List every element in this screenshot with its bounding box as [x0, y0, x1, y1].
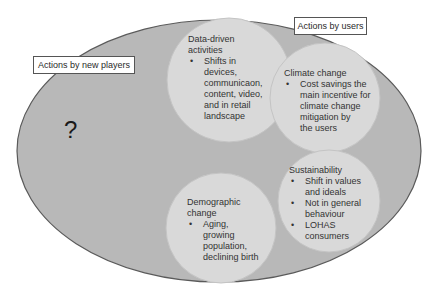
bullet-list: Shifts in devices, communicaon, content,…	[188, 56, 263, 122]
text-demographic-change: Demographic change Aging, growing popula…	[187, 197, 259, 263]
bullet-line: climate change	[300, 101, 371, 112]
bullet-line: population,	[203, 241, 259, 252]
heading-line: Climate change	[284, 68, 371, 79]
bullet-line: and ideals	[305, 187, 361, 198]
bullet-line: consumers	[305, 231, 361, 242]
bullet-line: content, video,	[204, 89, 263, 100]
label-actions-by-users: Actions by users	[294, 17, 367, 35]
bullet-line: Aging,	[203, 219, 259, 230]
bullet-list: Cost savings the main incentive for clim…	[284, 79, 371, 134]
bullet-line: devices,	[204, 67, 263, 78]
bullet-line: communicaon,	[204, 78, 263, 89]
bullet-line: and in retail	[204, 100, 263, 111]
bullet-line: Not in general	[305, 198, 361, 209]
bullet-item: Cost savings the main incentive for clim…	[284, 79, 371, 134]
bullet-line: growing	[203, 230, 259, 241]
bullet-item: Aging, growing population, declining bir…	[187, 219, 259, 263]
heading-line: Sustainability	[289, 165, 361, 176]
heading-line: Data-driven	[188, 34, 263, 45]
question-mark: ?	[64, 116, 77, 144]
bullet-line: Shift in values	[305, 176, 361, 187]
bullet-line: Shifts in	[204, 56, 263, 67]
bullet-item: Not in general behaviour	[289, 198, 361, 220]
text-sustainability: Sustainability Shift in values and ideal…	[289, 165, 361, 242]
heading-line: change	[187, 208, 259, 219]
bullet-line: landscape	[204, 111, 263, 122]
text-climate-change: Climate change Cost savings the main inc…	[284, 68, 371, 134]
bullet-item: Shifts in devices, communicaon, content,…	[188, 56, 263, 122]
bullet-line: declining birth	[203, 252, 259, 263]
bullet-line: mitigation by	[300, 112, 371, 123]
bullet-line: Cost savings the	[300, 79, 371, 90]
bullet-item: LOHAS consumers	[289, 220, 361, 242]
heading-line: activities	[188, 45, 263, 56]
bullet-line: the users	[300, 123, 371, 134]
bullet-line: LOHAS	[305, 220, 361, 231]
bullet-item: Shift in values and ideals	[289, 176, 361, 198]
bullet-list: Aging, growing population, declining bir…	[187, 219, 259, 263]
heading-line: Demographic	[187, 197, 259, 208]
label-actions-by-new-players: Actions by new players	[33, 56, 135, 74]
bullet-line: main incentive for	[300, 90, 371, 101]
bullet-line: behaviour	[305, 209, 361, 220]
text-data-driven: Data-driven activities Shifts in devices…	[188, 34, 263, 122]
bullet-list: Shift in values and ideals Not in genera…	[289, 176, 361, 242]
